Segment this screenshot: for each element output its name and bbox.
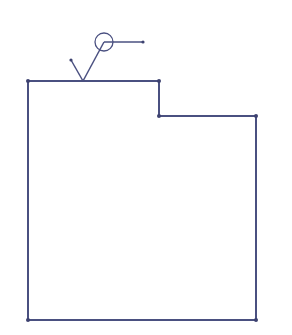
vertex-point — [254, 114, 258, 118]
v-tip-dot — [69, 58, 72, 61]
vertex-point — [26, 79, 30, 83]
location-marker-symbol — [69, 33, 144, 81]
vertex-point — [26, 318, 30, 322]
leader-end-dot — [141, 40, 144, 43]
marker-v-right-arm — [83, 42, 104, 81]
vertex-point — [157, 79, 161, 83]
marker-v-left-arm — [71, 60, 83, 81]
vertex-point — [254, 318, 258, 322]
diagram-canvas — [0, 0, 292, 335]
vertex-point — [157, 114, 161, 118]
room-outline — [28, 81, 256, 320]
